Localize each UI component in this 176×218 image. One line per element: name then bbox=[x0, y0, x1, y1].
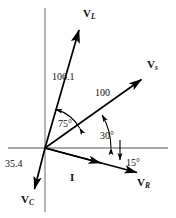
vector-label-i: I bbox=[70, 172, 74, 185]
vector-label-vs: Vs bbox=[147, 59, 158, 72]
vector-label-vs-sub: s bbox=[155, 63, 158, 72]
vector-i bbox=[45, 148, 101, 163]
vector-label-vl-text: V bbox=[83, 7, 91, 19]
angle-label-15: 15° bbox=[126, 158, 140, 168]
vector-vs bbox=[45, 80, 142, 149]
vector-vc bbox=[35, 148, 46, 189]
vector-label-vc-text: V bbox=[21, 193, 29, 205]
magnitude-label-vl: 106.1 bbox=[52, 72, 75, 82]
magnitude-label-vs: 100 bbox=[95, 88, 110, 98]
vector-label-i-text: I bbox=[70, 171, 74, 183]
vector-vl bbox=[45, 30, 79, 148]
angle-label-75: 75° bbox=[58, 119, 72, 129]
vector-label-vs-text: V bbox=[147, 58, 155, 70]
vector-label-vc-sub: C bbox=[29, 198, 34, 207]
magnitude-label-vc: 35.4 bbox=[5, 159, 23, 169]
vector-label-vl-sub: L bbox=[91, 12, 96, 21]
vector-label-vr-text: V bbox=[137, 176, 145, 188]
vector-label-vl: VL bbox=[83, 8, 96, 21]
angle-label-30: 30° bbox=[100, 131, 114, 141]
vector-label-vr-sub: R bbox=[145, 181, 150, 190]
vector-label-vc: VC bbox=[21, 194, 34, 207]
vector-label-vr: VR bbox=[137, 177, 150, 190]
